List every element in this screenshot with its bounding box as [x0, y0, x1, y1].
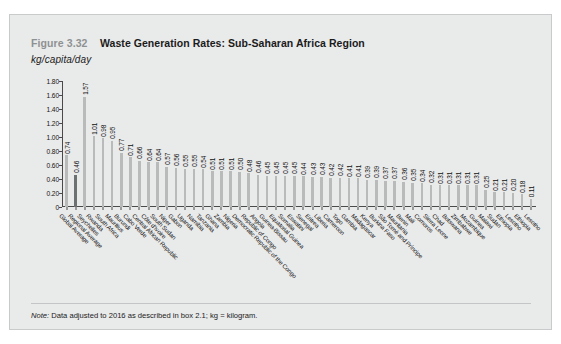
- bar-group[interactable]: 0.74: [62, 81, 71, 207]
- bar[interactable]: [83, 97, 86, 207]
- bar[interactable]: [184, 169, 187, 208]
- bar[interactable]: [257, 175, 260, 207]
- bar[interactable]: [439, 185, 442, 207]
- bar[interactable]: [493, 192, 496, 207]
- bar[interactable]: [339, 178, 342, 207]
- bar[interactable]: [348, 178, 351, 207]
- bar[interactable]: [375, 180, 378, 207]
- bar[interactable]: [475, 185, 478, 207]
- bar[interactable]: [366, 180, 369, 207]
- bar[interactable]: [120, 153, 123, 207]
- bar[interactable]: [302, 176, 305, 207]
- bar-group[interactable]: 0.45: [290, 81, 299, 207]
- bar-group[interactable]: 0.31: [472, 81, 481, 207]
- bar-group[interactable]: 0.11: [527, 81, 536, 207]
- bar-group[interactable]: 0.35: [408, 81, 417, 207]
- bar-group[interactable]: 0.25: [481, 81, 490, 207]
- bar-group[interactable]: 0.42: [335, 81, 344, 207]
- bar[interactable]: [247, 173, 250, 207]
- bar-group[interactable]: 0.64: [153, 81, 162, 207]
- bar[interactable]: [466, 185, 469, 207]
- bar-group[interactable]: 0.71: [126, 81, 135, 207]
- bar[interactable]: [266, 176, 269, 208]
- bar-group[interactable]: 0.56: [171, 81, 180, 207]
- bar[interactable]: [512, 193, 515, 207]
- bar[interactable]: [293, 176, 296, 208]
- bar[interactable]: [102, 138, 105, 207]
- bar-group[interactable]: 0.45: [272, 81, 281, 207]
- bar-group[interactable]: 0.51: [208, 81, 217, 207]
- bar-group[interactable]: 0.55: [180, 81, 189, 207]
- bar-group[interactable]: 0.51: [226, 81, 235, 207]
- bar[interactable]: [448, 185, 451, 207]
- bar-group[interactable]: 0.32: [426, 81, 435, 207]
- bar-group[interactable]: 0.31: [454, 81, 463, 207]
- bar[interactable]: [284, 176, 287, 208]
- bar[interactable]: [521, 194, 524, 207]
- bar-group[interactable]: 0.66: [135, 81, 144, 207]
- bar[interactable]: [202, 169, 205, 207]
- bar-group[interactable]: 0.98: [98, 81, 107, 207]
- bar-group[interactable]: 0.39: [372, 81, 381, 207]
- bar[interactable]: [238, 172, 241, 207]
- bar[interactable]: [93, 136, 96, 207]
- bar-group[interactable]: 0.45: [281, 81, 290, 207]
- bar-group[interactable]: 0.41: [344, 81, 353, 207]
- bar[interactable]: [311, 177, 314, 207]
- bar-group[interactable]: 0.46: [71, 81, 80, 207]
- bar-group[interactable]: 1.57: [80, 81, 89, 207]
- bar-group[interactable]: 0.37: [390, 81, 399, 207]
- bar-group[interactable]: 0.41: [354, 81, 363, 207]
- bar-group[interactable]: 0.57: [162, 81, 171, 207]
- bar[interactable]: [74, 175, 77, 207]
- bar-group[interactable]: 0.36: [399, 81, 408, 207]
- bar[interactable]: [357, 178, 360, 207]
- bar-group[interactable]: 0.18: [517, 81, 526, 207]
- bar[interactable]: [129, 157, 132, 207]
- bar[interactable]: [65, 155, 68, 207]
- bar-group[interactable]: 0.77: [117, 81, 126, 207]
- bar[interactable]: [111, 141, 114, 208]
- bar[interactable]: [211, 171, 214, 207]
- bar-group[interactable]: 0.55: [190, 81, 199, 207]
- bar-group[interactable]: 0.31: [445, 81, 454, 207]
- bar[interactable]: [530, 199, 533, 207]
- bar-group[interactable]: 0.51: [217, 81, 226, 207]
- bar-group[interactable]: 0.21: [499, 81, 508, 207]
- bar-group[interactable]: 0.48: [244, 81, 253, 207]
- bar-group[interactable]: 0.31: [463, 81, 472, 207]
- bar[interactable]: [147, 162, 150, 207]
- bar-group[interactable]: 0.95: [108, 81, 117, 207]
- bar[interactable]: [457, 185, 460, 207]
- bar[interactable]: [175, 168, 178, 207]
- bar[interactable]: [229, 171, 232, 207]
- bar-group[interactable]: 0.54: [199, 81, 208, 207]
- bar[interactable]: [384, 181, 387, 207]
- bar-group[interactable]: 0.37: [381, 81, 390, 207]
- bar-group[interactable]: 0.39: [363, 81, 372, 207]
- bar-group[interactable]: 0.42: [326, 81, 335, 207]
- bar[interactable]: [275, 176, 278, 208]
- bar-group[interactable]: 1.01: [89, 81, 98, 207]
- bar-group[interactable]: 0.45: [262, 81, 271, 207]
- bar[interactable]: [156, 162, 159, 207]
- bar-group[interactable]: 0.44: [299, 81, 308, 207]
- bar-group[interactable]: 0.43: [317, 81, 326, 207]
- bar-group[interactable]: 0.31: [435, 81, 444, 207]
- bar[interactable]: [411, 183, 414, 208]
- bar[interactable]: [421, 183, 424, 207]
- bar[interactable]: [402, 182, 405, 207]
- bar-group[interactable]: 0.20: [508, 81, 517, 207]
- bar-group[interactable]: 0.21: [490, 81, 499, 207]
- bar[interactable]: [430, 185, 433, 207]
- bar[interactable]: [329, 178, 332, 207]
- bar[interactable]: [320, 177, 323, 207]
- bar[interactable]: [165, 167, 168, 207]
- bar[interactable]: [138, 161, 141, 207]
- bar[interactable]: [484, 190, 487, 208]
- bar[interactable]: [193, 169, 196, 208]
- bar-group[interactable]: 0.46: [253, 81, 262, 207]
- bar-group[interactable]: 0.34: [417, 81, 426, 207]
- bar-group[interactable]: 0.43: [308, 81, 317, 207]
- bar[interactable]: [393, 181, 396, 207]
